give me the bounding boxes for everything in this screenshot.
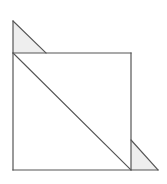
- figure-svg: [0, 0, 167, 184]
- geometry-figure: [0, 0, 167, 184]
